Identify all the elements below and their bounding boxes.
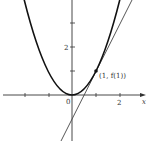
figure-canvas: (1, f(1)) 0 2 2 x bbox=[0, 0, 149, 141]
origin-label: 0 bbox=[66, 98, 70, 106]
x-axis-arrow-icon bbox=[140, 93, 146, 97]
x-tick-label-2: 2 bbox=[117, 99, 121, 107]
point-label: (1, f(1)) bbox=[99, 72, 126, 80]
x-axis-label: x bbox=[142, 98, 146, 106]
y-axis bbox=[70, 0, 75, 141]
tangency-point bbox=[94, 69, 98, 73]
y-tick-label-2: 2 bbox=[64, 44, 68, 52]
